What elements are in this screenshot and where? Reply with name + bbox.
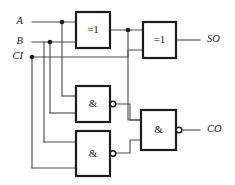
wire-w-ci-main [32,50,143,57]
junction-j-xor1 [126,28,131,33]
inversion-bubble-nand1 [110,101,116,107]
gate-label-nand2: & [89,147,98,159]
input-label-a: A [16,15,24,26]
inversion-bubble-nand2 [110,151,116,157]
gate-label-nand1: & [89,97,98,109]
junction-j-a [60,20,65,25]
gate-label-nand3: & [154,123,163,135]
gate-nand2: & [76,131,116,176]
junction-j-ci [30,55,35,60]
gate-xor1: =1 [76,12,110,48]
gate-label-xor2: =1 [154,33,166,45]
gates-layer: =1=1&&& [76,12,182,176]
circuit-diagram: =1=1&&& ABCISOCO [0,0,235,185]
wire-w-nand2-out [116,140,141,153]
gate-nand1: & [76,86,116,122]
gate-label-xor1: =1 [87,23,99,35]
output-label-co: CO [207,123,222,134]
gate-xor2: =1 [143,22,176,58]
output-label-so: SO [207,33,220,44]
junction-j-b [48,40,53,45]
gate-nand3: & [141,110,182,150]
input-label-ci: CI [13,50,24,61]
circuit-canvas: =1=1&&& ABCISOCO [0,0,235,185]
inversion-bubble-nand3 [176,127,182,133]
input-label-b: B [17,35,24,46]
